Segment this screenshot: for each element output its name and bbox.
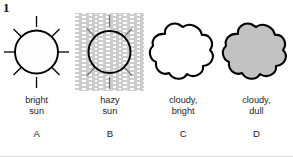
panel-cloudy-dull: cloudy, dull D (220, 12, 293, 144)
sun-icon (0, 12, 73, 92)
panel-letter: D (220, 129, 293, 139)
panel-bright-sun: bright sun A (0, 12, 73, 144)
hazy-sun-icon (73, 12, 146, 92)
panel-caption: cloudy, bright (169, 95, 197, 117)
weather-conditions-figure: 1 bright s (0, 0, 293, 157)
panel-cloudy-bright: cloudy, bright C (147, 12, 220, 144)
panel-caption: cloudy, dull (242, 95, 270, 117)
panel-letter: C (147, 129, 220, 139)
panel-letter: A (0, 129, 73, 139)
cloud-icon (147, 12, 220, 92)
panel-letter: B (73, 129, 146, 139)
panel-caption: bright sun (25, 95, 48, 117)
panel-row: bright sun A (0, 12, 293, 144)
bottom-divider (0, 156, 293, 157)
panel-hazy-sun: hazy sun B (73, 12, 146, 144)
panel-caption: hazy sun (100, 95, 119, 117)
cloud-filled-icon (220, 12, 293, 92)
